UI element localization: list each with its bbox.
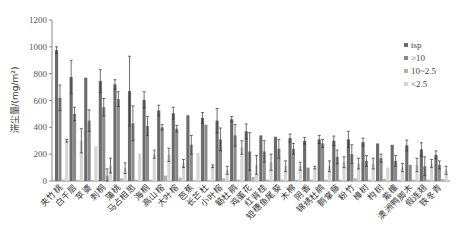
y-tick-label: 0 xyxy=(43,176,48,186)
bar xyxy=(157,111,160,181)
bar xyxy=(55,50,58,181)
bar xyxy=(204,125,207,181)
bar xyxy=(376,143,379,181)
y-tick-label: 200 xyxy=(34,149,48,159)
bar xyxy=(99,81,102,181)
bar xyxy=(412,180,415,181)
y-tick-label: 1000 xyxy=(29,42,48,52)
bar-group xyxy=(274,137,287,181)
bar xyxy=(339,180,342,181)
bar xyxy=(208,180,211,181)
bar xyxy=(172,113,175,181)
bar-group xyxy=(216,109,229,181)
bar xyxy=(102,107,105,181)
bar xyxy=(306,168,309,181)
bar xyxy=(76,180,79,181)
bar xyxy=(318,139,321,181)
bar xyxy=(281,180,284,181)
bar xyxy=(361,142,364,181)
bar xyxy=(179,178,182,181)
bar xyxy=(94,146,97,181)
bar xyxy=(288,138,291,181)
bar xyxy=(230,119,233,181)
bar xyxy=(138,153,141,181)
bar-group xyxy=(157,105,170,181)
bar-group xyxy=(113,80,126,181)
bar xyxy=(397,180,400,181)
bar-group xyxy=(186,115,199,181)
bar-group xyxy=(347,131,360,181)
bar-group xyxy=(259,135,272,181)
bar xyxy=(383,179,386,181)
bar xyxy=(321,143,324,181)
bar xyxy=(391,145,394,181)
bar-group xyxy=(245,124,258,181)
bar xyxy=(251,177,254,181)
bar xyxy=(186,115,189,181)
legend-entry: 10~2.5 xyxy=(411,66,437,76)
bar-group xyxy=(84,78,97,181)
bar xyxy=(113,84,116,181)
bar xyxy=(259,135,262,181)
bar xyxy=(295,180,298,181)
bar xyxy=(161,127,164,181)
bar xyxy=(237,180,240,181)
bar-group xyxy=(376,143,389,181)
bar-group xyxy=(172,107,185,181)
legend-swatch xyxy=(404,82,408,86)
bar-group xyxy=(361,138,374,181)
legend-swatch xyxy=(404,56,408,60)
bar-group xyxy=(99,70,112,181)
bar xyxy=(354,178,357,181)
bar-group xyxy=(55,47,68,181)
bar xyxy=(313,168,316,181)
bar xyxy=(274,137,277,181)
bar-group xyxy=(143,92,156,181)
bar-group xyxy=(70,60,83,181)
y-axis-label: 滞尘量/(mg/m²) xyxy=(10,67,20,134)
bar xyxy=(310,180,313,181)
x-axis-labels: 夹竹桃白千层苹婆刺桐蒲桃马占相思海桐高山榕大叶榕芭蕉长芒杜小叶榕簕杜鹃鸡蛋花红背… xyxy=(38,182,444,221)
bar-group xyxy=(318,135,331,181)
bar-group xyxy=(128,56,141,181)
bar xyxy=(73,114,76,181)
bar-group xyxy=(391,145,404,181)
bar xyxy=(266,180,269,181)
bar xyxy=(332,141,335,181)
legend-swatch xyxy=(404,43,408,47)
bar xyxy=(84,78,87,181)
legend-entry: >10 xyxy=(411,53,426,63)
bars xyxy=(55,47,448,181)
y-tick-label: 600 xyxy=(34,96,48,106)
bar xyxy=(211,166,214,181)
y-axis: 020040060080010001200 xyxy=(29,15,450,186)
bar xyxy=(197,153,200,181)
bar-group xyxy=(420,143,433,181)
legend-entry: tsp xyxy=(411,40,422,50)
bar xyxy=(149,180,152,181)
bar xyxy=(117,99,120,181)
bar-group xyxy=(201,113,214,181)
bar-group xyxy=(332,136,345,181)
legend-swatch xyxy=(404,69,408,73)
bar xyxy=(368,180,371,181)
bar xyxy=(386,168,389,181)
bar-group xyxy=(303,137,316,181)
bar-group xyxy=(405,140,418,181)
bar xyxy=(409,165,412,181)
legend-entry: <2.5 xyxy=(411,79,428,89)
legend: tsp>1010~2.5<2.5 xyxy=(404,40,437,89)
bar-chart: 020040060080010001200 夹竹桃白千层苹婆刺桐蒲桃马占相思海桐… xyxy=(0,0,463,236)
bar xyxy=(175,129,178,181)
bar xyxy=(135,180,138,181)
bar xyxy=(222,178,225,181)
bar xyxy=(62,180,65,181)
bar xyxy=(201,118,204,181)
bar xyxy=(143,100,146,181)
bar-group xyxy=(434,151,447,181)
y-tick-label: 800 xyxy=(34,69,48,79)
bar xyxy=(427,180,430,181)
y-tick-label: 1200 xyxy=(29,15,48,25)
bar xyxy=(164,176,167,181)
bar xyxy=(120,178,123,181)
